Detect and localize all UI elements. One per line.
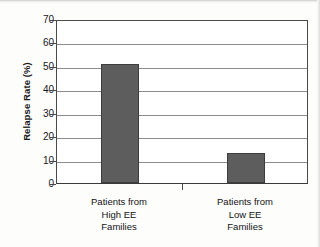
gridline-30 — [57, 115, 307, 116]
y-tick-label-0: 0 — [14, 179, 54, 189]
x-category-line: Low EE — [182, 209, 308, 222]
x-category-label-0: Patients fromHigh EEFamilies — [56, 196, 182, 234]
gridline-10 — [57, 162, 307, 163]
gridline-40 — [57, 91, 307, 92]
y-tick-label-20: 20 — [14, 132, 54, 142]
y-tick-label-60: 60 — [14, 38, 54, 48]
y-tick-label-30: 30 — [14, 109, 54, 119]
bar-0 — [101, 64, 139, 183]
x-category-line: High EE — [56, 209, 182, 222]
x-category-line: Patients from — [182, 196, 308, 209]
gridline-60 — [57, 44, 307, 45]
x-category-line: Families — [56, 221, 182, 234]
y-tick-label-70: 70 — [14, 15, 54, 25]
x-category-line: Families — [182, 221, 308, 234]
y-axis-title: Relapse Rate (%) — [21, 27, 32, 177]
y-tick-mark-0 — [50, 184, 56, 185]
bar-chart-figure: Relapse Rate (%) 010203040506070 Patient… — [0, 0, 320, 247]
x-tick-mark-1 — [182, 184, 183, 190]
y-tick-label-50: 50 — [14, 62, 54, 72]
x-category-label-1: Patients fromLow EEFamilies — [182, 196, 308, 234]
plot-area — [56, 20, 308, 184]
bar-1 — [227, 153, 265, 183]
x-category-line: Patients from — [56, 196, 182, 209]
scan-edge-top — [0, 0, 320, 3]
gridline-50 — [57, 68, 307, 69]
y-tick-label-40: 40 — [14, 85, 54, 95]
gridline-20 — [57, 138, 307, 139]
y-tick-label-10: 10 — [14, 156, 54, 166]
